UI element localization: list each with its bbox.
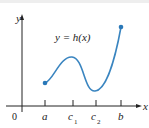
- tick-label-c2-sub: 2: [97, 118, 101, 126]
- endpoint-a: [43, 81, 48, 86]
- tick-label-b: b: [118, 110, 124, 122]
- x-axis-label: x: [142, 100, 148, 112]
- origin-label: 0: [12, 111, 17, 122]
- endpoint-b: [119, 25, 124, 30]
- tick-label-c1: c: [68, 110, 73, 122]
- function-graph: y x 0 y = h(x) a c 1 c 2 b: [0, 0, 149, 128]
- tick-label-a: a: [42, 110, 48, 122]
- function-label: y = h(x): [54, 31, 91, 44]
- x-axis-arrow-icon: [136, 104, 142, 108]
- cropped-header-text: [0, 0, 149, 3]
- y-axis-label: y: [15, 12, 21, 24]
- tick-label-c2: c: [91, 110, 96, 122]
- tick-label-c1-sub: 1: [74, 118, 78, 126]
